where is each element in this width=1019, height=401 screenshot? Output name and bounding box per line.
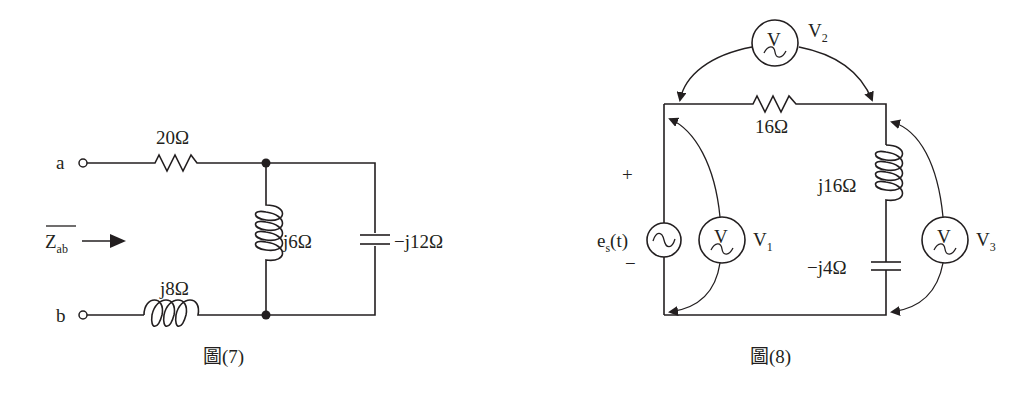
- zab-label: Zab: [45, 231, 68, 256]
- resistor-16-label: 16Ω: [755, 116, 788, 137]
- circuit-diagrams: a b 20Ω j8Ω j6Ω −j12Ω Zab 圖(7) 16Ω: [0, 0, 1019, 401]
- arrow-right-icon: [110, 234, 126, 248]
- capacitor-j4-label: −j4Ω: [807, 257, 847, 278]
- v2-label: V2: [808, 20, 828, 45]
- terminal-a-label: a: [56, 152, 65, 173]
- source-minus: −: [625, 253, 636, 274]
- v2-lead-right: [799, 47, 872, 100]
- resistor-20-label: 20Ω: [156, 127, 189, 148]
- terminal-b: [79, 311, 87, 319]
- v3-lead-top: [892, 122, 943, 217]
- junction-top: [262, 159, 271, 168]
- figure-7-caption: 圖(7): [203, 346, 244, 368]
- inductor-j16-label: j16Ω: [817, 175, 856, 196]
- wire: [664, 270, 886, 315]
- inductor-j16: [876, 145, 903, 262]
- v1-label: V1: [753, 229, 773, 254]
- figure-8-caption: 圖(8): [750, 346, 791, 368]
- terminal-a: [79, 159, 87, 167]
- source-plus: +: [622, 164, 633, 185]
- v1-lead-bottom: [670, 263, 720, 312]
- v1-lead-top: [670, 119, 720, 217]
- v3-label: V3: [976, 229, 996, 254]
- figure-7: a b 20Ω j8Ω j6Ω −j12Ω Zab 圖(7): [45, 127, 443, 368]
- terminal-b-label: b: [56, 305, 66, 326]
- source-label: es(t): [597, 230, 628, 255]
- capacitor-j12-label: −j12Ω: [394, 231, 443, 252]
- figure-8: 16Ω + − es(t) j16Ω −j4Ω V V2 V V1: [597, 20, 996, 368]
- fig7-main-wires: [87, 155, 375, 315]
- inductor-j6: [256, 163, 283, 315]
- junction-bottom: [262, 311, 271, 320]
- inductor-j6-label: j6Ω: [282, 231, 312, 252]
- v2-lead-left: [680, 47, 752, 100]
- inductor-j8-label: j8Ω: [159, 278, 189, 299]
